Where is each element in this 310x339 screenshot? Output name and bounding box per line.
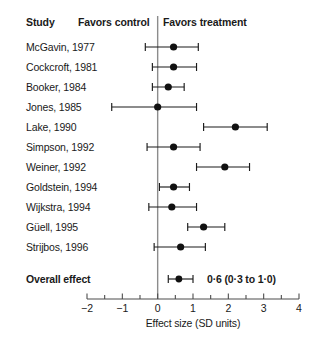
x-axis-tick-label: 2 [225, 302, 231, 314]
study-row-marker [197, 163, 250, 171]
x-axis-tick-label: 1 [190, 302, 196, 314]
x-axis-tick-label: −2 [81, 302, 93, 314]
x-axis-tick-label: 4 [296, 302, 302, 314]
study-row-marker [204, 123, 268, 131]
study-row-marker [147, 143, 200, 151]
study-row-marker [145, 43, 198, 51]
study-row-marker [188, 223, 225, 231]
study-row-marker [152, 63, 196, 71]
overall-effect-marker [168, 275, 193, 283]
x-axis-tick-label: 0 [155, 302, 161, 314]
study-row-marker [112, 103, 197, 111]
study-row-marker [149, 203, 197, 211]
x-axis-tick-label: −1 [116, 302, 128, 314]
plot-area: −2−101234 [0, 0, 310, 339]
study-row-marker [159, 183, 189, 191]
study-row-marker [154, 243, 205, 251]
x-axis-tick-label: 3 [261, 302, 267, 314]
